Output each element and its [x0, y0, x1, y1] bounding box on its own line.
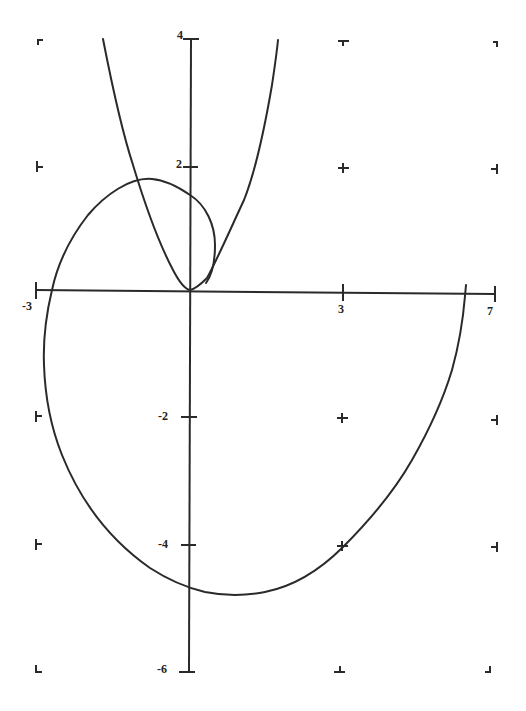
y-tick-label-4: 4 [177, 29, 183, 41]
marker-corner-top-right [493, 42, 497, 47]
marker-cross-y2 [338, 163, 349, 173]
marker-top-mid [338, 41, 349, 46]
x-axis [36, 290, 495, 294]
curves [44, 39, 466, 595]
x-tick-label-neg3: -3 [22, 300, 32, 312]
y-axis [189, 39, 191, 672]
x-tick-label-3: 3 [338, 303, 344, 315]
marker-corner-bottom-right [485, 666, 490, 672]
grid-markers [36, 40, 497, 672]
chart-plot [0, 0, 526, 711]
marker-cross-yneg2 [337, 413, 348, 423]
y-tick-label-neg6: -6 [157, 663, 167, 675]
marker-right-yneg4 [491, 542, 497, 552]
marker-corner-bottom-left [36, 665, 42, 672]
marker-corner-top-left [38, 40, 43, 45]
y-tick-label-neg4: -4 [158, 538, 168, 550]
marker-bottom-mid [334, 666, 345, 672]
marker-left-yneg4 [36, 539, 42, 550]
y-tick-label-2: 2 [176, 158, 182, 170]
marker-left-yneg2 [36, 411, 42, 422]
marker-right-yneg2 [491, 415, 497, 425]
spiral-loop-curve [44, 179, 466, 595]
marker-right-y2 [491, 164, 497, 174]
y-tick-label-neg2: -2 [158, 410, 168, 422]
axes [36, 39, 495, 672]
x-tick-label-7: 7 [487, 305, 493, 317]
marker-left-y2 [37, 161, 43, 172]
